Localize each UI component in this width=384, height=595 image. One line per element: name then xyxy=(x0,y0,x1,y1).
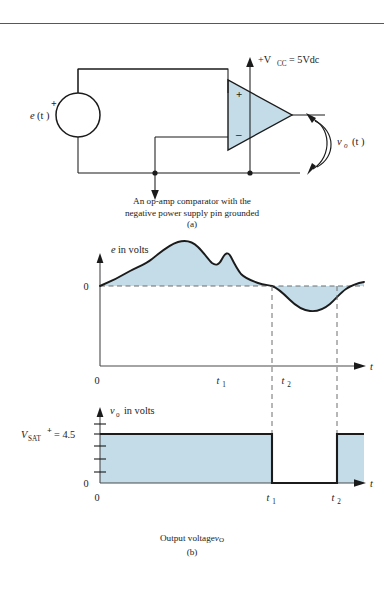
lower-plot-zero-label: 0 xyxy=(83,478,88,489)
header-rule xyxy=(0,23,384,24)
lower-plot-ylabel-subscript: o xyxy=(116,411,120,419)
upper-plot-tick1-var: t xyxy=(217,375,221,386)
upper-plot-tick1-subscript: 1 xyxy=(222,381,226,389)
output-arrow-head-bottom xyxy=(307,163,316,175)
upper-plot-zero-label: 0 xyxy=(83,281,88,292)
supply-label-subscript: CC xyxy=(277,60,287,68)
lower-plot-y-axis-arrow xyxy=(97,407,104,417)
caption-a-line2: negative power supply pin grounded xyxy=(0,208,384,220)
waveform-plots: e in volts 0 t 0 t 1 t 2 v o in xyxy=(0,238,384,533)
lower-plot-tick2-subscript: 2 xyxy=(337,498,341,506)
upper-plot-y-axis-arrow xyxy=(97,253,104,263)
opamp-plus-symbol: + xyxy=(236,88,242,100)
lower-plot-ylabel-var: v xyxy=(110,405,115,416)
supply-label-prefix: +V xyxy=(258,54,272,65)
supply-arrow-head xyxy=(246,57,254,67)
source-label-arg: (t ) xyxy=(37,110,50,122)
lower-plot-xlabel: t xyxy=(370,478,374,489)
lower-plot-tick1-subscript: 1 xyxy=(272,498,276,506)
upper-plot-ylabel-var: e xyxy=(111,244,116,255)
upper-plot-xlabel: t xyxy=(370,361,374,372)
caption-b-tag: (b) xyxy=(0,547,384,559)
figure-page: + – + e (t ) +V CC = 5Vdc xyxy=(0,0,384,595)
noninverting-input-wire xyxy=(78,69,228,93)
lower-plot-ylabel-text: in volts xyxy=(124,405,155,416)
vsat-label-superscript: + xyxy=(47,425,52,435)
opamp-circuit-diagram: + – + e (t ) +V CC = 5Vdc xyxy=(0,25,384,200)
upper-plot-tick2-subscript: 2 xyxy=(287,381,291,389)
lower-plot-tick1-var: t xyxy=(267,492,271,503)
vsat-label-value: = 4.5 xyxy=(54,429,75,440)
caption-b-line1: Output voltagevO xyxy=(0,533,384,547)
opamp-minus-symbol: – xyxy=(235,128,242,140)
caption-b-text: Output voltage xyxy=(160,533,215,543)
output-label-subscript: o xyxy=(344,142,348,150)
upper-plot-ylabel-text: in volts xyxy=(118,244,149,255)
source-label: e xyxy=(30,110,35,121)
caption-a-tag: (a) xyxy=(0,219,384,231)
caption-b: Output voltagevO (b) xyxy=(0,533,384,558)
caption-a-line1: An op-amp comparator with the xyxy=(0,196,384,208)
output-label-arg: (t ) xyxy=(352,136,365,148)
upper-plot-x-axis-arrow xyxy=(354,362,366,369)
caption-b-var-subscript: O xyxy=(219,536,224,544)
lower-plot-tick2-var: t xyxy=(332,492,336,503)
lower-plot-origin-label: 0 xyxy=(94,492,99,503)
output-pulse-block-2 xyxy=(337,434,364,483)
caption-a: An op-amp comparator with the negative p… xyxy=(0,196,384,231)
voltage-source-circle xyxy=(56,93,100,137)
source-polarity-plus: + xyxy=(51,98,57,109)
supply-label-value: = 5Vdc xyxy=(289,54,320,65)
junction-dot-supply xyxy=(247,170,252,175)
vsat-label-subscript: SAT xyxy=(28,435,41,443)
upper-plot-tick2-var: t xyxy=(282,375,286,386)
upper-plot-origin-label: 0 xyxy=(94,375,99,386)
output-label-var: v xyxy=(337,136,342,147)
output-pulse-block-1 xyxy=(100,434,272,483)
